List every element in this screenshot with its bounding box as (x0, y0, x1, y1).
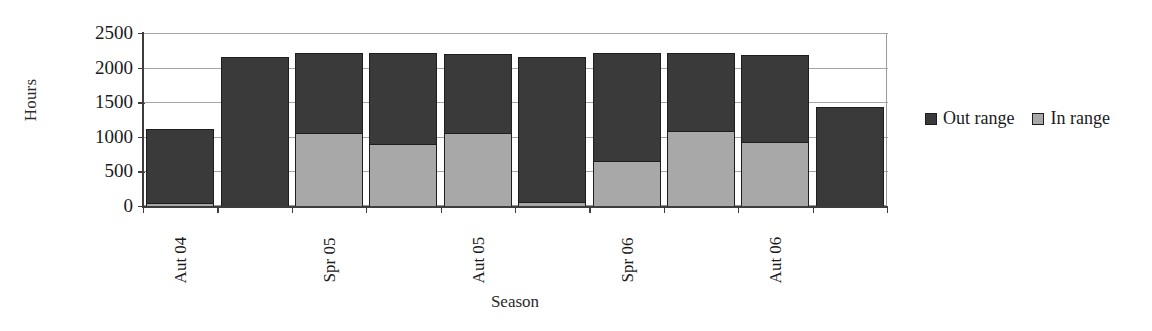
x-axis-tick-mark (441, 206, 442, 213)
bar-segment-out-range[interactable] (816, 107, 884, 206)
bar-segment-in-range[interactable] (593, 161, 661, 206)
bar-segment-out-range[interactable] (741, 55, 809, 142)
y-axis-tick-label: 500 (61, 161, 133, 180)
y-axis-title: Hours (19, 50, 43, 150)
bar-column[interactable] (741, 55, 809, 206)
x-axis-tick-mark (664, 206, 665, 213)
x-axis-tick-mark (292, 206, 293, 213)
bar-segment-in-range[interactable] (444, 133, 512, 206)
bar-segment-out-range[interactable] (667, 53, 735, 131)
x-axis-tick-label: Spr 06 (617, 220, 637, 300)
y-axis-tick-label: 1000 (61, 127, 133, 146)
chart-legend: Out rangeIn range (925, 108, 1110, 129)
x-axis-tick-mark (738, 206, 739, 213)
bar-column[interactable] (816, 107, 884, 206)
bar-column[interactable] (146, 129, 214, 206)
legend-label: Out range (943, 108, 1014, 129)
x-axis-tick-mark (366, 206, 367, 213)
y-axis-tick-label: 2500 (61, 23, 133, 42)
bar-segment-out-range[interactable] (444, 54, 512, 133)
x-axis-tick-mark (887, 206, 888, 213)
y-axis-tick-labels: 05001000150020002500 (55, 0, 133, 331)
bar-segment-in-range[interactable] (369, 144, 437, 206)
x-axis-tick-mark (589, 206, 590, 213)
legend-entry[interactable]: In range (1032, 108, 1109, 129)
bar-column[interactable] (369, 53, 437, 206)
x-axis-tick-mark (143, 206, 144, 213)
bar-column[interactable] (444, 54, 512, 206)
x-axis-tick-mark (217, 206, 218, 213)
bar-column[interactable] (518, 57, 586, 206)
bar-segment-out-range[interactable] (369, 53, 437, 144)
x-axis-tick-label: Aut 05 (468, 220, 488, 300)
chart-figure: Hours 05001000150020002500 Season Out ra… (0, 0, 1152, 331)
bar-column[interactable] (221, 57, 289, 206)
bar-segment-in-range[interactable] (667, 131, 735, 206)
legend-swatch-out-range-icon (925, 113, 937, 125)
bar-segment-in-range[interactable] (295, 133, 363, 206)
bar-segment-in-range[interactable] (146, 203, 214, 206)
bar-segment-out-range[interactable] (518, 57, 586, 202)
x-axis-tick-mark (813, 206, 814, 213)
bar-segment-out-range[interactable] (295, 53, 363, 133)
x-axis-tick-mark (515, 206, 516, 213)
y-axis-tick-label: 2000 (61, 58, 133, 77)
legend-label: In range (1050, 108, 1109, 129)
x-axis-tick-label: Spr 05 (319, 220, 339, 300)
legend-swatch-in-range-icon (1032, 113, 1044, 125)
legend-entry[interactable]: Out range (925, 108, 1014, 129)
y-axis-tick-label: 0 (61, 196, 133, 215)
y-axis-tick-label: 1500 (61, 92, 133, 111)
bar-series-group (143, 33, 887, 206)
bar-column[interactable] (593, 53, 661, 206)
x-axis-tick-label: Aut 04 (170, 220, 190, 300)
bar-segment-out-range[interactable] (221, 57, 289, 206)
bar-segment-in-range[interactable] (518, 202, 586, 206)
bar-column[interactable] (295, 53, 363, 206)
bar-segment-in-range[interactable] (741, 142, 809, 206)
bar-column[interactable] (667, 53, 735, 206)
bar-segment-out-range[interactable] (146, 129, 214, 203)
bar-segment-out-range[interactable] (593, 53, 661, 161)
x-axis-tick-label: Aut 06 (765, 220, 785, 300)
